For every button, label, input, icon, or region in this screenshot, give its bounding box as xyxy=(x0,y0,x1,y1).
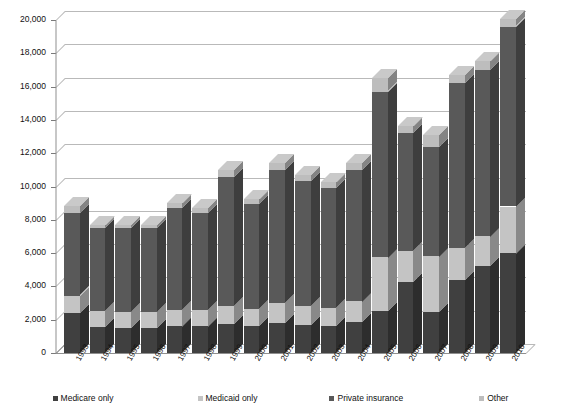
bar-2010[interactable] xyxy=(500,19,516,353)
axis-line xyxy=(56,111,66,121)
bar-segment-1997-3 xyxy=(167,203,183,208)
legend-item-0[interactable]: Medicare only xyxy=(53,393,114,403)
bar-1993[interactable] xyxy=(64,206,80,353)
bar-2004[interactable] xyxy=(346,163,362,353)
bar-2008[interactable] xyxy=(449,75,465,353)
segment-side-face xyxy=(439,247,448,312)
segment-front-face xyxy=(141,225,157,228)
segment-front-face xyxy=(321,182,337,188)
axis-line xyxy=(56,21,57,354)
bar-segment-2003-1 xyxy=(321,308,337,326)
segment-front-face xyxy=(295,325,311,353)
segment-side-face xyxy=(516,244,525,353)
segment-front-face xyxy=(115,225,131,228)
segment-front-face xyxy=(500,207,516,254)
bar-segment-2009-1 xyxy=(475,236,491,266)
y-axis-label: 10,000 xyxy=(0,181,46,191)
y-axis-label: 16,000 xyxy=(0,81,46,91)
legend-item-3[interactable]: Other xyxy=(479,393,508,403)
bar-2005[interactable] xyxy=(372,78,388,353)
bar-segment-2007-3 xyxy=(423,135,439,147)
legend-label: Private insurance xyxy=(337,393,403,403)
segment-front-face xyxy=(141,328,157,353)
bar-segment-2002-0 xyxy=(295,325,311,353)
segment-side-face xyxy=(285,161,294,303)
bar-segment-1994-1 xyxy=(90,311,106,327)
bar-segment-2010-0 xyxy=(500,253,516,353)
y-axis-label: 12,000 xyxy=(0,147,46,157)
bar-segment-1996-3 xyxy=(141,225,157,228)
segment-front-face xyxy=(372,311,388,353)
segment-front-face xyxy=(269,323,285,353)
bar-segment-1993-3 xyxy=(64,206,80,213)
axis-line xyxy=(526,344,536,354)
segment-front-face xyxy=(269,303,285,323)
bar-segment-2001-1 xyxy=(269,303,285,323)
bar-segment-2006-0 xyxy=(398,282,414,353)
segment-front-face xyxy=(218,177,234,306)
segment-front-face xyxy=(423,312,439,353)
segment-side-face xyxy=(80,204,89,295)
bar-2001[interactable] xyxy=(269,163,285,353)
segment-front-face xyxy=(372,78,388,91)
bar-2000[interactable] xyxy=(244,199,260,353)
axis-line xyxy=(56,144,66,154)
segment-front-face xyxy=(346,163,362,170)
segment-front-face xyxy=(115,228,131,312)
bar-segment-2001-3 xyxy=(269,163,285,170)
bar-segment-2009-0 xyxy=(475,266,491,353)
segment-side-face xyxy=(465,74,474,248)
bar-segment-2005-1 xyxy=(372,257,388,311)
segment-front-face xyxy=(64,213,80,295)
bar-1996[interactable] xyxy=(141,225,157,353)
bar-2002[interactable] xyxy=(295,175,311,353)
bar-segment-1999-3 xyxy=(218,170,234,177)
bar-segment-2003-2 xyxy=(321,188,337,308)
bar-segment-2006-1 xyxy=(398,251,414,282)
bar-segment-1999-2 xyxy=(218,177,234,306)
bar-segment-1997-2 xyxy=(167,208,183,310)
segment-front-face xyxy=(269,170,285,303)
bar-segment-1994-3 xyxy=(90,225,106,228)
segment-front-face xyxy=(295,306,311,325)
bar-2003[interactable] xyxy=(321,182,337,353)
bar-2009[interactable] xyxy=(475,61,491,353)
bar-segment-2008-3 xyxy=(449,75,465,83)
bar-segment-2006-2 xyxy=(398,133,414,251)
bar-segment-2009-2 xyxy=(475,70,491,237)
bar-segment-2004-0 xyxy=(346,322,362,353)
bar-2006[interactable] xyxy=(398,126,414,353)
segment-front-face xyxy=(449,280,465,353)
bar-segment-2005-3 xyxy=(372,78,388,91)
segment-front-face xyxy=(500,253,516,353)
legend-swatch-icon xyxy=(329,396,334,401)
bar-segment-2001-0 xyxy=(269,323,285,353)
segment-side-face xyxy=(413,273,422,353)
segment-front-face xyxy=(398,251,414,282)
bar-2007[interactable] xyxy=(423,135,439,353)
bar-1998[interactable] xyxy=(192,208,208,353)
bar-segment-2007-0 xyxy=(423,312,439,353)
segment-side-face xyxy=(182,199,191,310)
axis-line xyxy=(56,44,66,54)
bar-1994[interactable] xyxy=(90,225,106,353)
bar-segment-2003-3 xyxy=(321,182,337,188)
segment-front-face xyxy=(321,188,337,308)
segment-front-face xyxy=(295,175,311,181)
bar-1995[interactable] xyxy=(115,225,131,353)
bar-segment-2000-2 xyxy=(244,204,260,309)
segment-front-face xyxy=(64,206,80,213)
bar-1997[interactable] xyxy=(167,203,183,353)
bar-segment-2000-3 xyxy=(244,199,260,204)
plot-area: 02,0004,0006,0008,00010,00012,00014,0001… xyxy=(56,14,548,359)
legend-item-1[interactable]: Medicaid only xyxy=(198,393,258,403)
bar-segment-1993-1 xyxy=(64,296,80,313)
segment-front-face xyxy=(90,228,106,311)
legend-item-2[interactable]: Private insurance xyxy=(329,393,403,403)
segment-side-face xyxy=(336,179,345,308)
bar-1999[interactable] xyxy=(218,170,234,353)
legend-swatch-icon xyxy=(53,396,58,401)
bar-segment-2002-1 xyxy=(295,306,311,325)
segment-side-face xyxy=(259,195,268,309)
bar-segment-2008-1 xyxy=(449,248,465,280)
